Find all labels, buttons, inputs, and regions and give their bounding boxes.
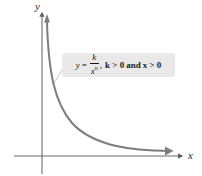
formula-denominator: xn [90, 65, 99, 76]
power-function-figure: y x y = k xn , k > 0 and x > 0 [0, 0, 202, 176]
condition-x: x > 0 [143, 61, 162, 70]
y-axis-label: y [35, 1, 40, 12]
formula-lhs: y [76, 61, 80, 70]
x-axis-label: x [188, 150, 193, 161]
formula-conjunction: and [126, 61, 141, 70]
formula-fraction: k xn [90, 53, 99, 76]
denominator-exponent: n [95, 65, 98, 71]
formula-annotation-box: y = k xn , k > 0 and x > 0 [62, 53, 175, 77]
power-curve [47, 22, 170, 151]
condition-k: k > 0 [105, 61, 124, 70]
formula-comma: , [100, 61, 102, 70]
formula-numerator: k [91, 53, 97, 62]
plot-canvas [0, 0, 202, 176]
formula-expression: y = k xn , k > 0 and x > 0 [76, 54, 162, 77]
curve-top-arrowhead [44, 14, 50, 23]
formula-equals: = [82, 61, 87, 70]
annotation-leader-line [53, 70, 62, 85]
